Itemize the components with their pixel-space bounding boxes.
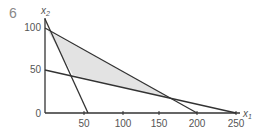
y-axis-label: x2 — [40, 5, 50, 17]
x-tick-50: 50 — [78, 118, 90, 129]
constraint-line-b — [45, 70, 236, 113]
y-tick-100: 100 — [24, 22, 41, 33]
y-tick-50: 50 — [30, 64, 42, 75]
x-tick-100: 100 — [115, 118, 132, 129]
x-axis-label: x1 — [242, 108, 252, 120]
x-tick-200: 200 — [189, 118, 206, 129]
feasible-region-graph: 50 100 150 200 250 0 50 100 x2 x1 — [0, 0, 260, 133]
constraint-line-a — [45, 28, 197, 113]
x-tick-250: 250 — [228, 118, 245, 129]
x-tick-150: 150 — [151, 118, 168, 129]
y-tick-0: 0 — [35, 108, 41, 119]
